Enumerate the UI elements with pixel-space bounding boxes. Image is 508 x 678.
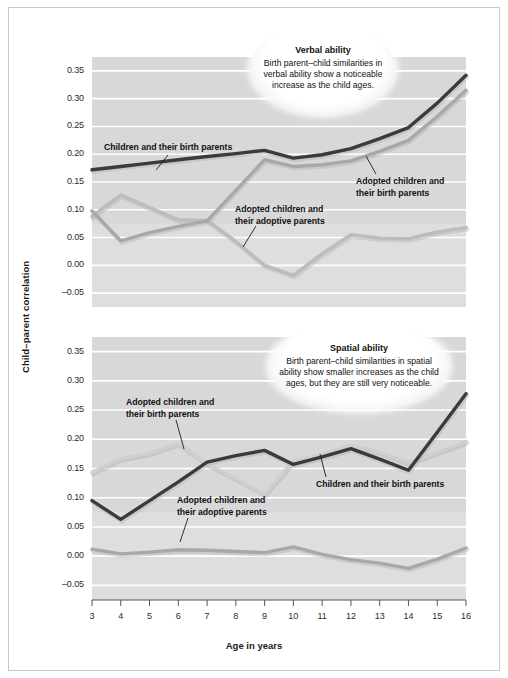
y-tick-label: 0.05	[50, 521, 84, 531]
x-tick-label: 9	[255, 611, 275, 621]
callout-verbal-title: Verbal ability	[295, 45, 351, 55]
x-tick-label: 11	[312, 611, 332, 621]
x-tick-label: 15	[427, 611, 447, 621]
x-tick-label: 12	[341, 611, 361, 621]
y-tick-label: 0.35	[50, 346, 84, 356]
annotation-spatial-birth-children: Children and their birth parents	[316, 479, 444, 491]
y-tick-label: 0.00	[50, 259, 84, 269]
annotation-spatial-adopted-adoptive-line1: Adopted children and	[177, 495, 265, 507]
annotation-spatial-adopted-birth-line1: Adopted children and	[126, 397, 214, 409]
y-tick-label: 0.15	[50, 176, 84, 186]
y-tick-label: 0.25	[50, 404, 84, 414]
y-tick-label: 0.15	[50, 463, 84, 473]
annotation-verbal-adopted-adoptive-line1: Adopted children and	[235, 204, 323, 216]
annotation-spatial-adopted-birth-line2: their birth parents	[126, 409, 199, 421]
x-tick-label: 5	[140, 611, 160, 621]
y-tick-label: 0.20	[50, 148, 84, 158]
annotation-spatial-adopted-adoptive-line2: their adoptive parents	[177, 507, 267, 519]
y-tick-label: 0.10	[50, 204, 84, 214]
y-tick-label: 0.10	[50, 492, 84, 502]
x-tick-label: 4	[111, 611, 131, 621]
x-tick-label: 13	[370, 611, 390, 621]
annotation-verbal-adopted-adoptive-line2: their adoptive parents	[235, 216, 325, 228]
y-tick-label: –0.05	[50, 287, 84, 297]
y-tick-label: 0.00	[50, 550, 84, 560]
callout-spatial-title: Spatial ability	[330, 343, 388, 353]
annotation-verbal-adopted-birth-line2: their birth parents	[356, 188, 429, 200]
x-tick-label: 6	[168, 611, 188, 621]
y-tick-label: 0.05	[50, 232, 84, 242]
x-tick-label: 7	[197, 611, 217, 621]
annotation-verbal-birth-children: Children and their birth parents	[104, 142, 232, 154]
x-tick-label: 10	[283, 611, 303, 621]
callout-spatial-body: Birth parent–child similarities in spati…	[269, 356, 449, 390]
y-tick-label: –0.05	[50, 579, 84, 589]
y-tick-label: 0.35	[50, 65, 84, 75]
y-tick-label: 0.25	[50, 120, 84, 130]
y-tick-label: 0.30	[50, 93, 84, 103]
figure-root: Child–parent correlation Age in years –0…	[0, 0, 508, 678]
callout-spatial-ability: Spatial ability Birth parent–child simil…	[269, 322, 449, 410]
callout-verbal-body: Birth parent–child similarities in verba…	[251, 58, 395, 92]
x-tick-label: 3	[82, 611, 102, 621]
y-tick-label: 0.30	[50, 375, 84, 385]
x-tick-label: 14	[398, 611, 418, 621]
x-tick-label: 16	[456, 611, 476, 621]
y-tick-label: 0.20	[50, 433, 84, 443]
x-tick-label: 8	[226, 611, 246, 621]
callout-verbal-ability: Verbal ability Birth parent–child simila…	[251, 22, 395, 114]
annotation-verbal-adopted-birth-line1: Adopted children and	[356, 176, 444, 188]
